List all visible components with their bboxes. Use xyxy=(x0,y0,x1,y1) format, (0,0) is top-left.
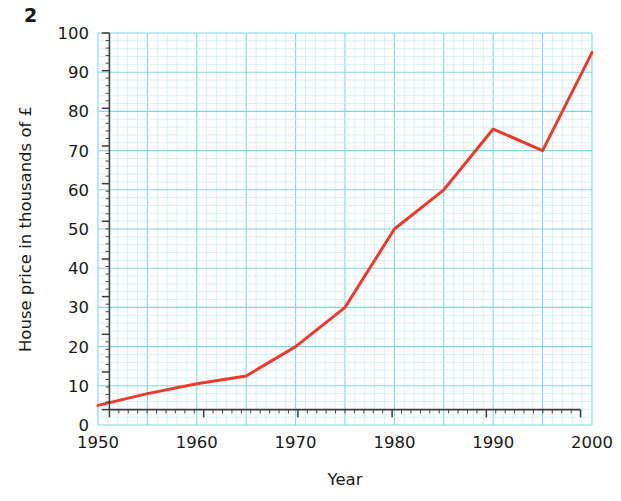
y-tick-label: 100 xyxy=(58,24,90,43)
y-tick-label: 50 xyxy=(68,220,89,239)
y-axis-title: House price in thousands of £ xyxy=(12,33,38,425)
y-tick-label: 0 xyxy=(79,416,90,435)
x-tick-label: 1980 xyxy=(373,433,415,452)
x-axis-title: Year xyxy=(98,470,592,489)
x-tick-label: 1960 xyxy=(176,433,218,452)
y-tick-label: 60 xyxy=(68,180,89,199)
y-tick-label: 70 xyxy=(68,141,89,160)
y-tick-label: 20 xyxy=(68,337,89,356)
y-tick-label: 40 xyxy=(68,259,89,278)
x-tick-label: 1970 xyxy=(275,433,317,452)
axes-layer xyxy=(98,33,592,425)
y-tick-label: 10 xyxy=(68,376,89,395)
y-tick-label: 90 xyxy=(68,63,89,82)
chart-figure: 2 House price in thousands of £ 01020304… xyxy=(0,0,621,501)
y-tick-label: 80 xyxy=(68,102,89,121)
plot-area: 0102030405060708090100 19501960197019801… xyxy=(98,33,592,425)
x-tick-label: 1950 xyxy=(77,433,119,452)
y-tick-label: 30 xyxy=(68,298,89,317)
x-tick-label: 2000 xyxy=(571,433,613,452)
question-number: 2 xyxy=(24,4,37,26)
x-tick-label: 1990 xyxy=(472,433,514,452)
